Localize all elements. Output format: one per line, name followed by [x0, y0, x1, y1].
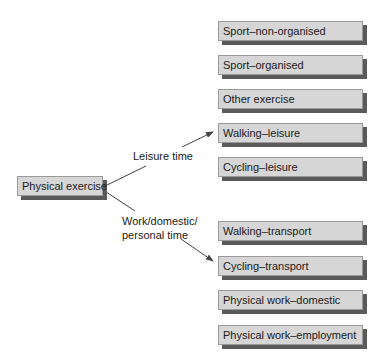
leisure-arrow-head: [182, 132, 213, 147]
node-cycling-leisure: Cycling–leisure: [218, 157, 363, 177]
node-walking-transport: Walking–transport: [218, 221, 363, 241]
branch-label-leisure-time: Leisure time: [133, 149, 193, 163]
branch-label-work-line2: personal time: [122, 228, 188, 242]
node-sport-non-organised: Sport–non-organised: [218, 21, 363, 41]
node-physical-work-employment: Physical work–employment: [218, 325, 363, 345]
branch-label-work-line1: Work/domestic/: [122, 214, 198, 228]
work-arrow-tail: [103, 190, 135, 211]
work-arrow-head: [181, 239, 213, 261]
node-other-exercise: Other exercise: [218, 89, 363, 109]
leisure-arrow-tail: [103, 166, 146, 187]
node-walking-leisure: Walking–leisure: [218, 123, 363, 143]
root-node-physical-exercise: Physical exercise: [17, 176, 103, 196]
node-physical-work-domestic: Physical work–domestic: [218, 290, 363, 310]
node-sport-organised: Sport–organised: [218, 55, 363, 75]
node-cycling-transport: Cycling–transport: [218, 256, 363, 276]
